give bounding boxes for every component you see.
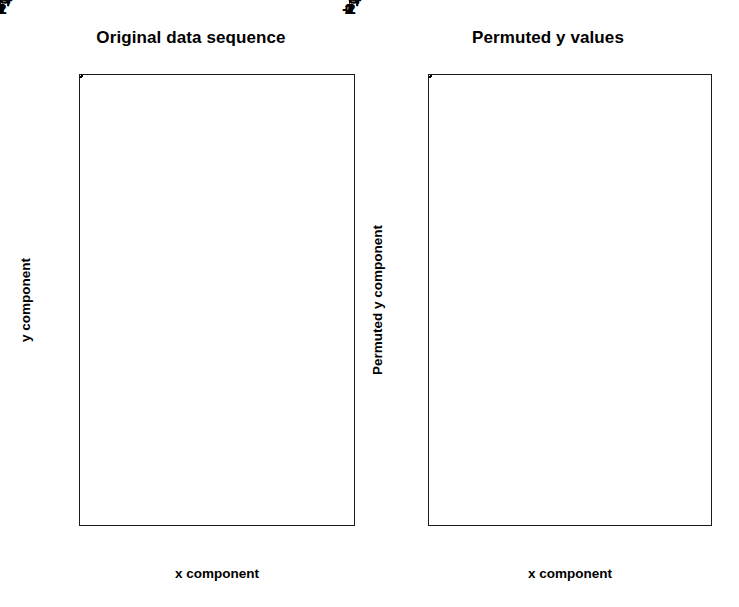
panel-original-data: Original data sequence -2-1012-2-1012 x … (0, 0, 400, 607)
panel-title-original: Original data sequence (0, 28, 391, 48)
plot-area-original (80, 75, 354, 525)
y-tick-label: 2 (0, 0, 13, 4)
y-axis-title-permuted: Permuted y component (370, 225, 385, 375)
plot-frame-permuted (428, 74, 712, 526)
panel-title-permuted: Permuted y values (353, 28, 739, 48)
data-point (80, 75, 83, 78)
y-axis-title-original: y component (18, 258, 33, 342)
x-axis-title-original: x component (175, 566, 259, 581)
figure-canvas: Original data sequence -2-1012-2-1012 x … (0, 0, 739, 607)
plot-frame-original (79, 74, 355, 526)
plot-area-permuted (429, 75, 711, 525)
panel-permuted-data: Permuted y values -2-1012-2-1012 x compo… (349, 0, 739, 607)
x-axis-title-permuted: x component (528, 566, 612, 581)
data-point (429, 75, 432, 78)
y-tick-label: 2 (345, 0, 362, 4)
